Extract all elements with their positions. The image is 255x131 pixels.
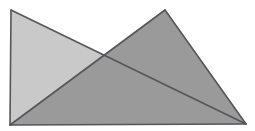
- shared-base: [10, 124, 246, 125]
- figure-canvas: [0, 0, 255, 131]
- triangles-figure: [0, 0, 255, 131]
- light-left-edge: [10, 10, 11, 125]
